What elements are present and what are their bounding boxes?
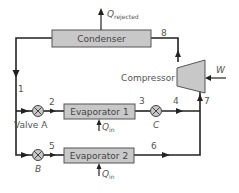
arrow-right-icon: [176, 108, 183, 114]
arrow-up-icon: [98, 8, 104, 15]
condenser: Condenser: [52, 30, 151, 47]
valve-a: Valve A: [14, 106, 48, 131]
state-7: 7: [204, 96, 210, 106]
evaporator-2-label: Evaporator 2: [70, 151, 128, 161]
evaporator-1-label: Evaporator 1: [70, 107, 128, 117]
compressor-label: Compressor: [121, 73, 175, 83]
work-label: W: [216, 65, 226, 75]
arrow-up-icon: [175, 50, 181, 57]
state-2: 2: [49, 97, 55, 107]
valve-c: C: [151, 106, 162, 131]
state-3: 3: [139, 96, 145, 106]
evaporator-1: Evaporator 1 Qin: [64, 104, 135, 133]
valve-c-label: C: [153, 120, 160, 130]
arrow-right-icon: [21, 152, 29, 158]
compressor: Compressor: [121, 60, 205, 93]
q-rejected: Qrejected: [98, 8, 139, 30]
arrow-up-icon: [97, 163, 102, 169]
arrow-up-icon: [197, 94, 203, 101]
state-6: 6: [151, 141, 157, 151]
q-rejected-label: Qrejected: [107, 9, 139, 21]
q-in-1-label: Qin: [102, 122, 115, 133]
q-in-2-label: Qin: [102, 169, 115, 180]
condenser-label: Condenser: [77, 34, 126, 44]
arrow-left-icon: [205, 75, 211, 81]
arrow-right-icon: [50, 153, 56, 158]
valve-b: B: [33, 150, 44, 175]
state-4: 4: [173, 96, 179, 106]
state-5: 5: [49, 141, 55, 151]
valve-b-label: B: [35, 164, 41, 174]
state-8: 8: [161, 28, 167, 38]
arrow-down-icon: [13, 70, 20, 78]
work-input: W: [205, 65, 226, 81]
refrigeration-cycle-diagram: Condenser Qrejected Compressor W Evapora…: [0, 0, 239, 193]
arrow-right-icon: [162, 152, 170, 158]
arrow-up-icon: [97, 119, 102, 125]
valve-a-label: Valve A: [14, 120, 48, 130]
evaporator-2: Evaporator 2 Qin: [64, 148, 134, 180]
state-1: 1: [18, 84, 24, 94]
arrow-right-icon: [50, 109, 56, 114]
arrow-right-icon: [21, 108, 29, 114]
